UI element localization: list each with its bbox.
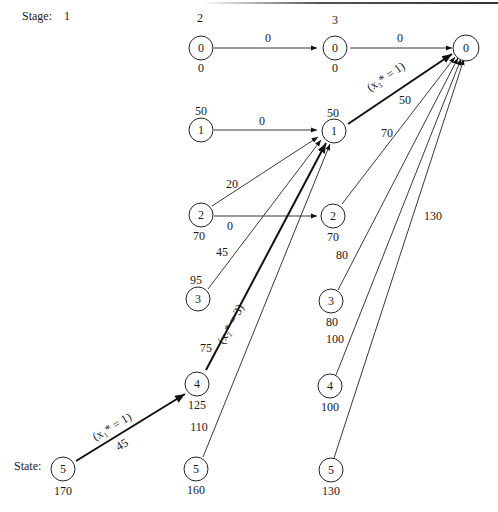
edge-s2-2-to-s3-1: [212, 137, 318, 206]
svg-text:0: 0: [332, 41, 338, 55]
edge-s2-5-to-s3-1: [203, 144, 330, 457]
svg-text:125: 125: [188, 398, 206, 412]
edge-s3-2-to-s4-0: [342, 57, 455, 204]
svg-text:130: 130: [322, 484, 340, 498]
svg-text:3: 3: [195, 292, 201, 306]
edge-cost-label: 0: [265, 31, 271, 45]
svg-text:4: 4: [194, 377, 200, 391]
svg-text:3: 3: [328, 294, 334, 308]
svg-text:80: 80: [326, 315, 338, 329]
node-stage3-state3: 3 80: [319, 289, 343, 329]
svg-text:2: 2: [198, 208, 204, 222]
svg-text:160: 160: [187, 483, 205, 497]
svg-text:0: 0: [332, 61, 338, 75]
svg-text:70: 70: [193, 229, 205, 243]
state-label: State:: [14, 459, 41, 473]
edge-cost-label: 130: [424, 209, 442, 223]
dynamic-programming-network-diagram: Stage: 1 2 3 State: 0 0 20 0 45 75 (x₂* …: [0, 0, 498, 512]
svg-text:5: 5: [193, 462, 199, 476]
svg-text:50: 50: [195, 104, 207, 118]
edge-cost-label: 0: [227, 219, 233, 233]
svg-text:1: 1: [331, 124, 337, 138]
edge-cost-label: 20: [226, 177, 238, 191]
edge-cost-label: 110: [190, 420, 208, 434]
edge-cost-label: 0: [397, 31, 403, 45]
node-stage1-state5: 5 170: [51, 457, 75, 498]
stage-3-header: 3: [332, 13, 338, 27]
svg-text:95: 95: [190, 273, 202, 287]
svg-text:4: 4: [327, 379, 333, 393]
edge-cost-label: 100: [326, 332, 344, 346]
node-stage2-state0: 0 0: [189, 36, 213, 75]
edge-s1-5-to-s2-4-optimal: [76, 394, 185, 461]
svg-text:5: 5: [60, 462, 66, 476]
node-stage3-state2: 2 70: [321, 204, 345, 244]
edge-cost-label: 50: [399, 93, 411, 107]
stage-label: Stage:: [22, 9, 52, 23]
node-stage2-state5: 5 160: [184, 457, 208, 497]
edge-cost-label: 45: [113, 435, 130, 453]
node-stage2-state4: 4 125: [185, 372, 209, 412]
edge-s2-3-to-s3-1: [208, 140, 321, 289]
edge-cost-label: 75: [200, 341, 212, 355]
svg-text:0: 0: [198, 41, 204, 55]
svg-text:100: 100: [321, 400, 339, 414]
node-terminal-state0: 0: [453, 35, 479, 61]
node-stage2-state1: 50 1: [189, 104, 213, 142]
edge-cost-label: 0: [259, 114, 265, 128]
node-stage2-state2: 2 70: [189, 203, 213, 243]
edge-cost-label: 80: [336, 248, 348, 262]
node-stage3-state4: 4 100: [318, 374, 342, 414]
edge-cost-label: 45: [216, 245, 228, 259]
edge-s3-3-to-s4-0: [338, 58, 458, 290]
stage-2-header: 2: [197, 11, 203, 25]
svg-text:2: 2: [330, 209, 336, 223]
decision-label: (x₂* = 3): [214, 302, 247, 346]
svg-text:1: 1: [198, 123, 204, 137]
node-stage2-state3: 95 3: [186, 273, 210, 311]
node-stage3-state1: 50 1: [322, 106, 346, 143]
svg-text:5: 5: [328, 463, 334, 477]
svg-text:50: 50: [327, 106, 339, 120]
svg-text:0: 0: [463, 41, 469, 55]
node-stage3-state5: 5 130: [319, 458, 343, 498]
edge-cost-label: 70: [381, 126, 393, 140]
node-stage3-state0: 0 0: [323, 36, 347, 75]
edge-s3-5-to-s4-0: [334, 59, 464, 458]
stage-1-header: 1: [64, 9, 70, 23]
svg-text:70: 70: [327, 230, 339, 244]
svg-text:170: 170: [54, 484, 72, 498]
svg-text:0: 0: [198, 61, 204, 75]
